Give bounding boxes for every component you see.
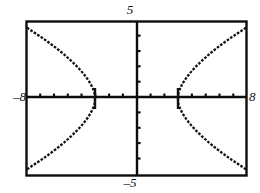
axis-label-x-min: –8: [2, 90, 26, 103]
calculator-screenshot: 5 –5 –8 8: [0, 0, 260, 193]
plot-canvas: [0, 0, 260, 193]
axis-label-y-min: –5: [0, 176, 260, 189]
axis-label-x-max: 8: [249, 90, 260, 103]
axis-label-y-max: 5: [0, 3, 260, 16]
